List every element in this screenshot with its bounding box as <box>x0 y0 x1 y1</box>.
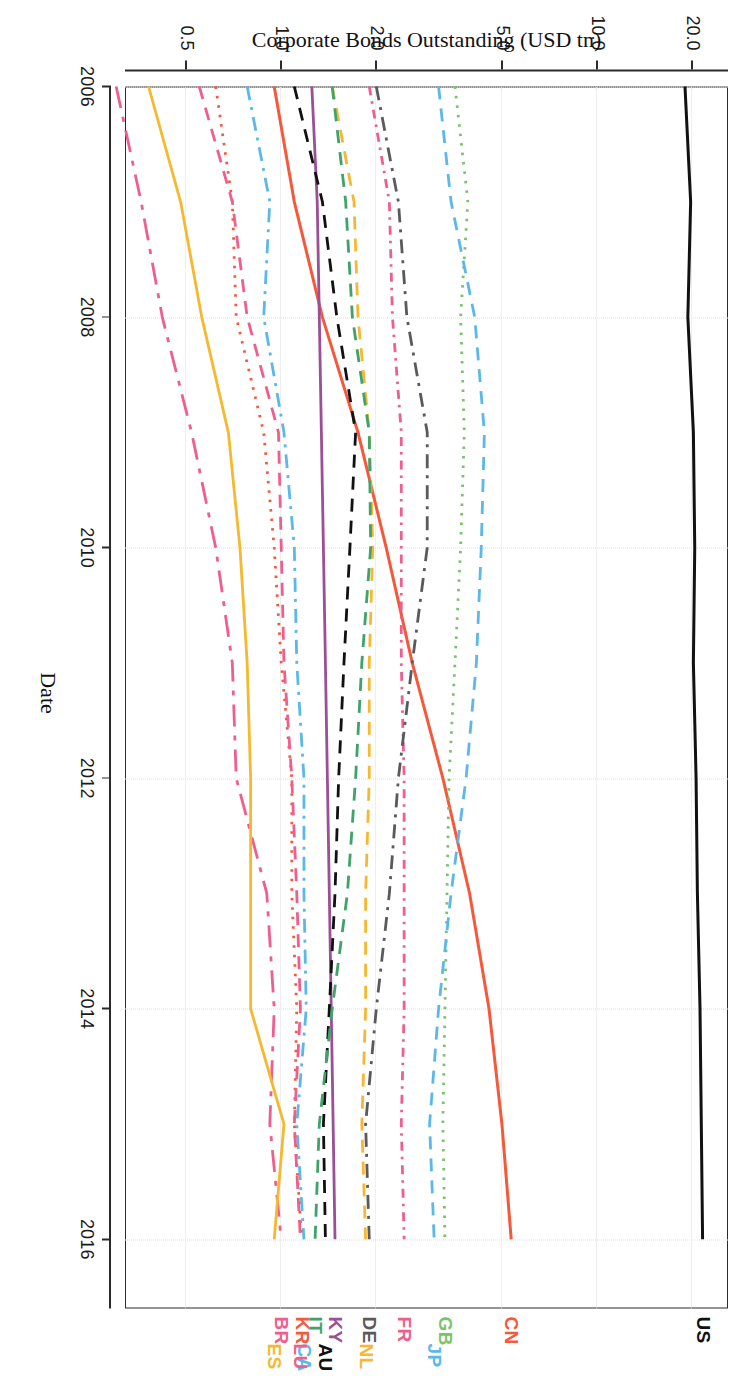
series-label-kr: KR <box>291 1316 313 1344</box>
x-tick-label: 2014 <box>76 988 97 1029</box>
series-label-nl: NL <box>355 1343 377 1369</box>
series-label-cn: CN <box>500 1316 522 1344</box>
x-axis-title: Date <box>35 0 61 1385</box>
y-tick <box>376 60 378 69</box>
x-tick <box>102 85 111 87</box>
grid-line-vertical <box>125 317 728 319</box>
x-tick <box>102 546 111 548</box>
grid-line-vertical <box>125 547 728 549</box>
x-axis-line <box>109 86 111 1308</box>
series-label-de: DE <box>358 1316 380 1343</box>
grid-line-vertical <box>125 1008 728 1010</box>
series-label-jp: JP <box>423 1343 445 1367</box>
series-label-ky: KY <box>324 1316 346 1343</box>
series-label-au: AU <box>314 1343 336 1371</box>
y-tick <box>185 60 187 69</box>
x-tick-label: 2010 <box>76 527 97 568</box>
x-tick-label: 2016 <box>76 1218 97 1259</box>
grid-line-vertical <box>125 86 728 88</box>
y-axis-title: Corporate Bonds Outstanding (USD tn) <box>125 26 728 52</box>
chart-figure: 200620082010201220142016 20.010.05.02.01… <box>0 0 742 1385</box>
series-label-es: ES <box>263 1343 285 1369</box>
x-tick <box>102 1238 111 1240</box>
x-tick-label: 2008 <box>76 296 97 337</box>
series-label-gb: GB <box>434 1316 456 1345</box>
series-label-lu: LU <box>289 1343 311 1369</box>
x-tick-label: 2012 <box>76 757 97 798</box>
plot-frame <box>125 86 728 1308</box>
y-tick <box>691 60 693 69</box>
y-tick <box>501 60 503 69</box>
series-label-br: BR <box>270 1316 292 1344</box>
x-tick <box>102 316 111 318</box>
grid-line-horizontal <box>184 86 186 1308</box>
grid-line-horizontal <box>500 86 502 1308</box>
x-tick-label: 2006 <box>76 66 97 107</box>
grid-line-vertical <box>125 1239 728 1241</box>
rotated-page-wrapper: 200620082010201220142016 20.010.05.02.01… <box>0 0 742 1385</box>
grid-line-horizontal <box>279 86 281 1308</box>
series-label-us: US <box>692 1316 714 1343</box>
x-tick <box>102 1007 111 1009</box>
grid-line-vertical <box>125 778 728 780</box>
y-tick <box>280 60 282 69</box>
grid-line-horizontal <box>595 86 597 1308</box>
grid-line-horizontal <box>690 86 692 1308</box>
y-axis-line <box>125 69 728 71</box>
y-tick <box>596 60 598 69</box>
series-label-fr: FR <box>393 1316 415 1342</box>
grid-line-horizontal <box>374 86 376 1308</box>
x-tick <box>102 777 111 779</box>
